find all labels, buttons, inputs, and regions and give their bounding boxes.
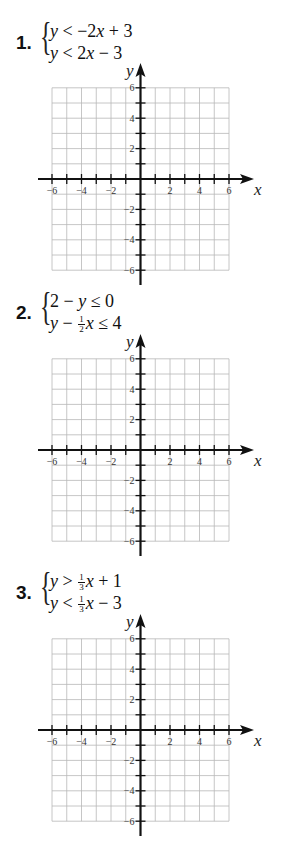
- x-tick-label: 6: [227, 456, 232, 467]
- y-tick-label: −2: [124, 204, 135, 215]
- x-axis-label: x: [253, 180, 262, 199]
- inequality-1: 2 − y ≤ 0: [50, 292, 114, 310]
- x-tick-label: −4: [76, 456, 87, 467]
- x-tick-label: 2: [168, 185, 173, 196]
- y-tick-label: 6: [130, 633, 135, 644]
- problem-number: 1.: [16, 32, 32, 54]
- coordinate-grid-1[interactable]: −6−4−2246642−2−4−6xy: [0, 60, 286, 290]
- y-tick-label: 4: [130, 384, 135, 395]
- y-tick-label: 6: [130, 353, 135, 364]
- x-tick-label: −2: [106, 185, 117, 196]
- y-axis-label: y: [124, 612, 134, 631]
- x-axis-label: x: [253, 731, 262, 750]
- x-tick-label: 4: [197, 185, 202, 196]
- x-tick-label: 4: [197, 736, 202, 747]
- x-tick-label: 2: [168, 736, 173, 747]
- y-tick-label: 4: [130, 664, 135, 675]
- x-tick-label: 6: [227, 185, 232, 196]
- y-tick-label: −2: [124, 475, 135, 486]
- y-tick-label: 2: [130, 143, 135, 154]
- y-tick-label: 4: [130, 113, 135, 124]
- y-tick-label: 2: [130, 414, 135, 425]
- x-tick-label: −2: [106, 736, 117, 747]
- x-tick-label: −6: [47, 736, 58, 747]
- x-tick-label: −6: [47, 185, 58, 196]
- y-axis-label: y: [124, 61, 134, 80]
- x-tick-label: −2: [106, 456, 117, 467]
- x-tick-label: −6: [47, 456, 58, 467]
- x-tick-label: −4: [76, 185, 87, 196]
- x-tick-label: 2: [168, 456, 173, 467]
- x-axis-label: x: [253, 451, 262, 470]
- x-tick-label: −4: [76, 736, 87, 747]
- y-tick-label: 2: [130, 694, 135, 705]
- y-axis-label: y: [124, 332, 134, 351]
- y-tick-label: −4: [124, 505, 135, 516]
- x-tick-label: 4: [197, 456, 202, 467]
- problem-number: 3.: [16, 582, 32, 604]
- y-tick-label: −6: [124, 265, 135, 276]
- y-tick-label: −4: [124, 234, 135, 245]
- coordinate-grid-3[interactable]: −6−4−2246642−2−4−6xy: [0, 611, 286, 841]
- coordinate-grid-2[interactable]: −6−4−2246642−2−4−6xy: [0, 331, 286, 561]
- fraction-third: 13: [78, 573, 85, 592]
- y-tick-label: 6: [130, 82, 135, 93]
- y-tick-label: −2: [124, 755, 135, 766]
- problem-number: 2.: [16, 302, 32, 324]
- inequality-1: y > 13x + 1: [50, 572, 122, 592]
- y-tick-label: −6: [124, 536, 135, 547]
- y-tick-label: −4: [124, 785, 135, 796]
- y-tick-label: −6: [124, 816, 135, 827]
- inequality-1: y < −2x + 3: [50, 22, 132, 40]
- x-tick-label: 6: [227, 736, 232, 747]
